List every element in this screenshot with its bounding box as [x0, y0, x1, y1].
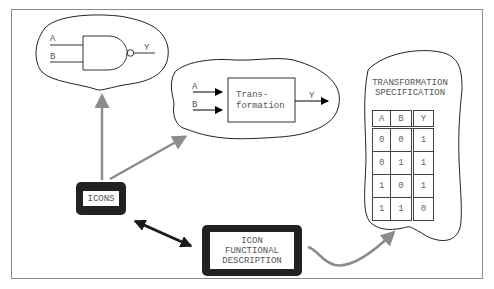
icons-label-text: ICONS	[87, 194, 114, 204]
header-a: A	[373, 111, 391, 128]
header-b: B	[391, 111, 412, 128]
description-box: ICON FUNCTIONAL DESCRIPTION	[202, 225, 302, 276]
cell-y: 1	[412, 175, 433, 198]
table-row: 0 1 1	[373, 152, 434, 175]
header-y: Y	[412, 111, 433, 128]
description-line1: ICON	[241, 236, 263, 246]
cell-b: 0	[391, 175, 412, 198]
table-row: 1 1 0	[373, 198, 434, 221]
cell-a: 1	[373, 175, 391, 198]
cell-b: 0	[391, 128, 412, 152]
cell-y: 0	[412, 198, 433, 221]
arrow-description-to-specification	[308, 234, 392, 265]
truth-table-header: A B Y	[373, 111, 434, 128]
transform-output-label: Y	[309, 91, 314, 101]
specification-title-line2: SPECIFICATION	[360, 88, 460, 98]
nand-gate-icon	[50, 36, 155, 70]
icons-box-label: ICONS	[83, 191, 119, 206]
cell-a: 0	[373, 152, 391, 175]
specification-title-line1: TRANSFORMATION	[360, 78, 460, 88]
nand-input-b-label: B	[50, 52, 55, 62]
table-row: 1 0 1	[373, 175, 434, 198]
arrow-icons-description	[135, 221, 191, 246]
cell-y: 1	[412, 128, 433, 152]
transform-input-b-label: B	[192, 100, 197, 110]
table-row: 0 0 1	[373, 128, 434, 152]
transform-label-line1: Trans-	[236, 90, 268, 100]
description-box-label: ICON FUNCTIONAL DESCRIPTION	[210, 232, 294, 269]
cell-a: 0	[373, 128, 391, 152]
arrow-icons-to-transformation	[110, 138, 183, 179]
nand-input-a-label: A	[50, 34, 55, 44]
transform-input-a-label: A	[192, 82, 197, 92]
truth-table: A B Y 0 0 1 0 1 1 1 0 1 1 1 0	[372, 110, 434, 221]
cell-a: 1	[373, 198, 391, 221]
cell-b: 1	[391, 198, 412, 221]
transformation-block-icon	[193, 78, 328, 122]
description-line2: FUNCTIONAL	[225, 246, 279, 256]
nand-output-label: Y	[144, 43, 149, 53]
cell-y: 1	[412, 152, 433, 175]
description-line3: DESCRIPTION	[222, 256, 281, 266]
icons-box: ICONS	[76, 182, 126, 215]
cell-b: 1	[391, 152, 412, 175]
transform-label-line2: formation	[236, 101, 285, 111]
